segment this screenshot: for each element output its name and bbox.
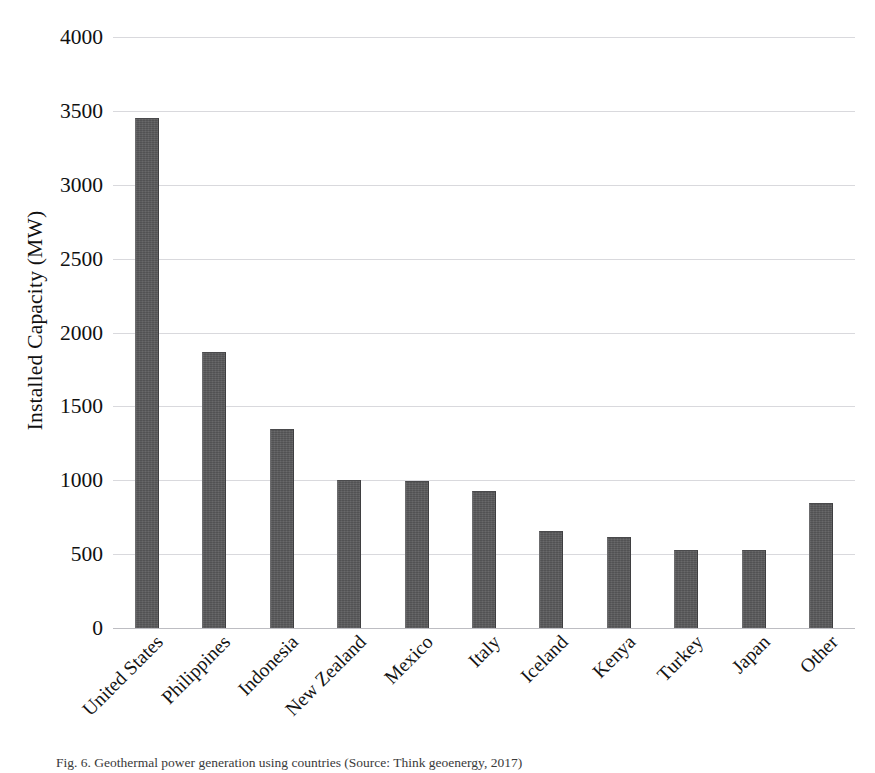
bar-slot	[180, 37, 247, 628]
bar-slot	[450, 37, 517, 628]
bar[interactable]	[674, 550, 698, 628]
bar-slot	[518, 37, 585, 628]
x-axis-tick-label: Indonesia	[234, 631, 303, 700]
x-axis-tick-label: Italy	[464, 631, 505, 672]
x-axis-tick-label: Kenya	[589, 631, 641, 683]
figure-geothermal-installed-capacity: Installed Capacity (MW) 4000350030002500…	[0, 0, 875, 773]
bar-slot	[585, 37, 652, 628]
axis-baseline	[113, 628, 855, 629]
x-axis-tick-label: Mexico	[380, 631, 438, 689]
figure-caption: Fig. 6. Geothermal power generation usin…	[56, 755, 856, 771]
bar-slot	[720, 37, 787, 628]
bar[interactable]	[405, 481, 429, 628]
y-axis-tick-label: 3500	[0, 98, 103, 123]
y-axis-tick-label: 500	[0, 542, 103, 567]
x-axis-tick-label: Philippines	[158, 631, 236, 709]
bar-series	[113, 37, 855, 628]
bar[interactable]	[270, 429, 294, 628]
x-axis-tick-label: United States	[78, 631, 167, 720]
x-axis-tick-label: Iceland	[517, 631, 573, 687]
bar[interactable]	[607, 537, 631, 628]
bar-slot	[248, 37, 315, 628]
y-axis-tick-label: 1500	[0, 394, 103, 419]
bar-slot	[653, 37, 720, 628]
y-axis-tick-label: 2500	[0, 246, 103, 271]
x-axis-tick-label: Japan	[728, 631, 775, 678]
y-axis-tick-label: 2000	[0, 320, 103, 345]
bar-slot	[113, 37, 180, 628]
y-axis-tick-label: 0	[0, 616, 103, 641]
y-axis-tick-label: 1000	[0, 468, 103, 493]
bar[interactable]	[472, 491, 496, 628]
bar[interactable]	[135, 118, 159, 628]
x-axis-tick-label: Turkey	[653, 631, 708, 686]
x-axis-tick-label: Other	[796, 631, 843, 678]
bar[interactable]	[809, 503, 833, 628]
plot-area	[113, 37, 855, 628]
bar[interactable]	[337, 480, 361, 628]
bar-slot	[788, 37, 855, 628]
y-axis-tick-label: 3000	[0, 172, 103, 197]
bar[interactable]	[742, 550, 766, 628]
bar[interactable]	[202, 352, 226, 628]
y-axis-tick-label: 4000	[0, 25, 103, 50]
bar[interactable]	[539, 531, 563, 629]
bar-slot	[383, 37, 450, 628]
bar-slot	[315, 37, 382, 628]
